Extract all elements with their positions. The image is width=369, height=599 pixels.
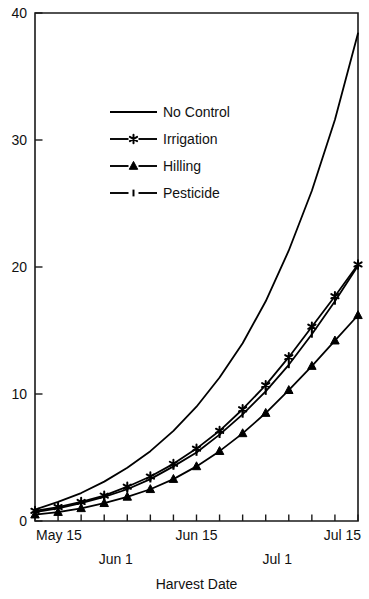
marker-triangle <box>354 311 362 319</box>
series-irrigation <box>31 260 361 515</box>
y-tick-label: 10 <box>11 386 27 402</box>
marker-triangle <box>192 462 200 470</box>
chart-legend: No ControlIrrigationHillingPesticide <box>110 104 230 201</box>
x-tick-label: Jun 1 <box>99 551 133 567</box>
series-pesticide <box>35 262 358 515</box>
y-tick-label: 0 <box>19 513 27 529</box>
legend-item-no-control: No Control <box>110 104 230 120</box>
x-tick-label: Jun 15 <box>175 527 217 543</box>
line-chart-plot: May 15Jun 1Jun 15Jul 1Jul 15 010203040 N… <box>0 0 369 599</box>
x-axis-title-text: Harvest Date <box>156 576 238 592</box>
legend-label: Hilling <box>163 158 201 174</box>
legend-label: Irrigation <box>163 131 217 147</box>
y-tick-label: 30 <box>11 132 27 148</box>
y-axis-ticks <box>35 13 43 521</box>
series-hilling <box>31 311 362 518</box>
x-axis-tick-labels: May 15Jun 1Jun 15Jul 1Jul 15 <box>36 527 361 567</box>
legend-item-irrigation: Irrigation <box>110 131 217 147</box>
legend-label: No Control <box>163 104 230 120</box>
x-tick-label: May 15 <box>36 527 82 543</box>
y-tick-label: 40 <box>11 5 27 21</box>
series-path <box>35 264 358 510</box>
series-path <box>35 315 358 514</box>
y-axis-tick-labels: 010203040 <box>11 5 27 529</box>
legend-item-pesticide: Pesticide <box>110 185 220 201</box>
series-path <box>35 266 358 512</box>
legend-label: Pesticide <box>163 185 220 201</box>
x-tick-label: Jul 1 <box>262 551 292 567</box>
y-tick-label: 20 <box>11 259 27 275</box>
marker-triangle <box>129 161 137 169</box>
legend-item-hilling: Hilling <box>110 158 201 174</box>
x-tick-label: Jul 15 <box>324 527 362 543</box>
marker-star <box>130 135 137 143</box>
x-axis-ticks <box>35 515 358 522</box>
x-axis-title: Harvest Date <box>156 576 238 592</box>
chart-container: May 15Jun 1Jun 15Jul 1Jul 15 010203040 N… <box>0 0 369 599</box>
